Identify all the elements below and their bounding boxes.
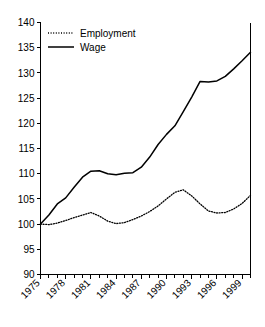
x-tick-label: 1990 xyxy=(144,277,168,301)
x-tick-label: 1996 xyxy=(195,277,219,301)
y-tick-label: 110 xyxy=(19,168,35,179)
series-line-wage xyxy=(41,52,251,224)
y-tick-label: 130 xyxy=(18,68,35,79)
x-axis-ticks: 197519781981198419871990199319961999 xyxy=(18,275,250,301)
x-tick-label: 1987 xyxy=(119,277,143,301)
chart-canvas: 9095100105110115120125130135140 19751978… xyxy=(0,0,265,327)
x-tick-label: 1975 xyxy=(18,277,42,301)
x-tick-label: 1984 xyxy=(94,277,118,301)
legend-label-wage: Wage xyxy=(80,42,106,53)
x-tick-label: 1978 xyxy=(44,277,68,301)
series-line-employment xyxy=(41,190,251,225)
line-chart: 9095100105110115120125130135140 19751978… xyxy=(0,0,265,327)
y-tick-label: 140 xyxy=(18,17,35,28)
x-tick-label: 1981 xyxy=(69,277,93,301)
y-tick-label: 135 xyxy=(18,42,35,53)
x-tick-label: 1999 xyxy=(220,277,244,301)
axis-spines xyxy=(41,23,251,275)
legend-label-employment: Employment xyxy=(80,28,136,39)
y-tick-label: 105 xyxy=(18,194,35,205)
axis-frame xyxy=(41,23,251,275)
x-tick-label: 1993 xyxy=(170,277,194,301)
y-tick-label: 95 xyxy=(23,244,35,255)
data-series xyxy=(41,52,251,224)
y-tick-label: 115 xyxy=(19,143,35,154)
y-axis-ticks: 9095100105110115120125130135140 xyxy=(18,17,41,280)
y-tick-label: 125 xyxy=(18,93,35,104)
legend: EmploymentWage xyxy=(45,23,155,53)
y-tick-label: 100 xyxy=(18,219,35,230)
y-tick-label: 120 xyxy=(18,118,35,129)
